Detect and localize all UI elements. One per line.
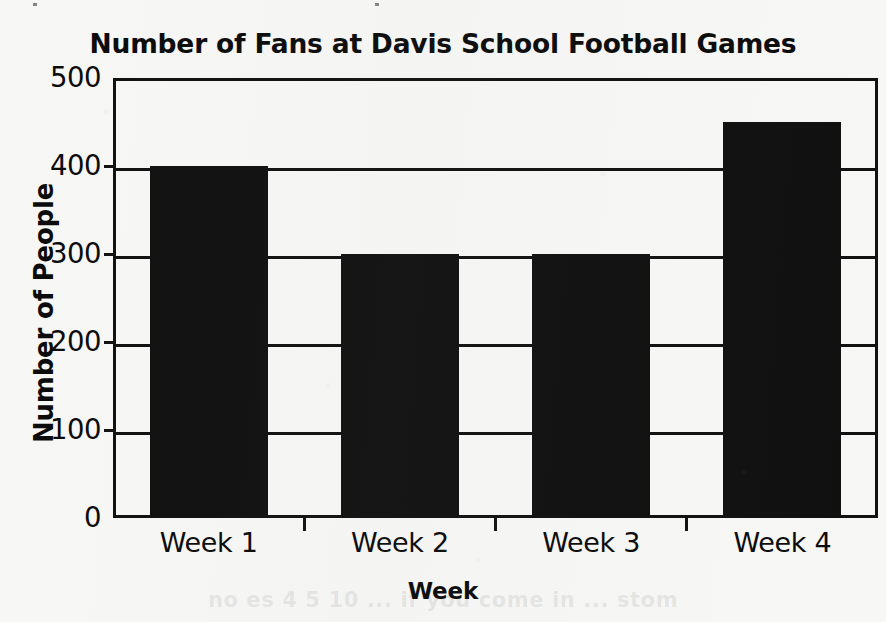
bar: [150, 166, 268, 518]
x-axis-tick-label: Week 4: [687, 528, 877, 558]
y-axis-tick-label: 0: [5, 504, 101, 532]
bar: [341, 254, 459, 518]
x-axis-tick-label: Week 1: [114, 528, 304, 558]
x-axis-tick-label: Week 3: [496, 528, 686, 558]
y-axis-tick-label: 500: [5, 64, 101, 92]
bars-layer: [113, 78, 878, 518]
x-axis-title: Week: [0, 578, 886, 604]
bar: [532, 254, 650, 518]
scan-speck: [33, 3, 37, 6]
scan-speck: [375, 3, 379, 6]
bar: [723, 122, 841, 518]
chart-title: Number of Fans at Davis School Football …: [0, 28, 886, 59]
y-axis-title: Number of People: [29, 153, 59, 473]
x-axis-tick-label: Week 2: [305, 528, 495, 558]
